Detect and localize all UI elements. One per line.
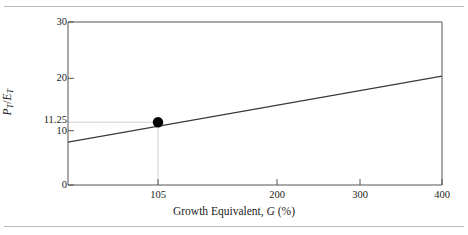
y-axis-title-denominator-subscript: T (6, 89, 15, 94)
x-tick-label-105: 105 (138, 190, 178, 201)
series-line (68, 76, 442, 142)
x-axis-title-symbol: G (267, 205, 275, 217)
y-tick-label-0: 0 (62, 180, 67, 191)
x-tick-label-400: 400 (422, 190, 462, 201)
y-axis-title: PT/ET (1, 67, 15, 137)
x-axis-title: Growth Equivalent, G (%) (0, 205, 468, 217)
x-tick-label-300: 300 (340, 190, 380, 201)
y-tick-label-11-25: 11.25 (44, 115, 67, 126)
y-axis-title-numerator: P (1, 108, 13, 115)
y-tick-label-10: 10 (57, 126, 68, 137)
data-point-marker (153, 117, 163, 127)
figure-bottom-rule (4, 226, 464, 227)
y-axis-title-denominator: E (1, 94, 13, 101)
plot-area: 30 20 11.25 10 0 105 200 300 400 Growth … (0, 0, 468, 235)
x-axis-title-lead: Growth Equivalent, (173, 205, 267, 217)
figure-container: 30 20 11.25 10 0 105 200 300 400 Growth … (0, 0, 468, 235)
x-axis-title-trail: (%) (275, 205, 295, 217)
y-axis-title-numerator-subscript: T (6, 104, 15, 109)
chart-canvas (0, 0, 468, 235)
y-axis-title-slash: / (1, 101, 13, 104)
y-tick-label-30: 30 (57, 17, 68, 28)
x-tick-label-200: 200 (257, 190, 297, 201)
y-tick-label-20: 20 (57, 73, 68, 84)
